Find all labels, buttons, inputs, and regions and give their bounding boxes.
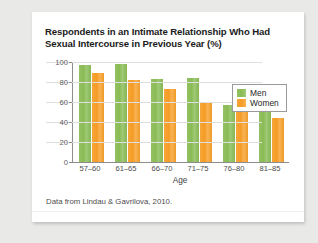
chart-plot-area: 020406080100 57–6061–6566–7071–7576–8081… — [46, 56, 294, 186]
y-tick-mark — [69, 122, 72, 123]
legend-item-women: Women — [237, 98, 279, 108]
bar-men-61–65 — [115, 64, 127, 162]
bar-group — [79, 62, 104, 162]
y-tick-label: 80 — [60, 78, 68, 87]
chart-legend: Men Women — [232, 84, 287, 112]
bar-group — [187, 62, 212, 162]
bar-group — [259, 62, 284, 162]
chart-card: Respondents in an Intimate Relationship … — [32, 12, 304, 222]
bar-group — [115, 62, 140, 162]
x-tick-label: 71–75 — [187, 164, 208, 173]
y-tick-mark — [69, 162, 72, 163]
y-tick-label: 60 — [60, 98, 68, 107]
bar-men-57–60 — [79, 65, 91, 162]
x-tick-label: 81–85 — [259, 164, 280, 173]
y-tick-mark — [69, 82, 72, 83]
y-tick-label: 100 — [55, 58, 68, 67]
legend-swatch-men-icon — [237, 89, 246, 97]
y-tick-label: 20 — [60, 138, 68, 147]
bar-women-61–65 — [128, 80, 140, 162]
footer-divider — [32, 211, 304, 212]
legend-swatch-women-icon — [237, 99, 246, 107]
legend-label-women: Women — [250, 98, 279, 108]
y-tick-mark — [69, 102, 72, 103]
source-caption: Data from Lindau & Gavrilova, 2010. — [46, 197, 172, 206]
x-axis-line — [72, 162, 289, 163]
y-tick-label: 40 — [60, 118, 68, 127]
bars-container — [72, 62, 288, 162]
bar-women-81–85 — [272, 118, 284, 162]
bar-men-81–85 — [259, 107, 271, 162]
bar-group — [223, 62, 248, 162]
legend-label-men: Men — [250, 88, 266, 98]
bar-women-57–60 — [92, 73, 104, 162]
y-tick-mark — [69, 62, 72, 63]
gridline — [46, 62, 262, 63]
bar-women-66–70 — [164, 89, 176, 162]
x-tick-label: 61–65 — [115, 164, 136, 173]
bar-men-71–75 — [187, 78, 199, 162]
x-axis-title: Age — [72, 176, 288, 185]
x-tick-label: 66–70 — [151, 164, 172, 173]
bar-men-66–70 — [151, 79, 163, 162]
gridline — [46, 82, 262, 83]
bar-women-71–75 — [200, 103, 212, 162]
y-tick-mark — [69, 142, 72, 143]
gridline — [46, 142, 262, 143]
y-tick-label: 0 — [64, 158, 68, 167]
x-tick-label: 57–60 — [79, 164, 100, 173]
x-tick-label: 76–80 — [223, 164, 244, 173]
gridline — [46, 122, 262, 123]
gridline — [46, 102, 262, 103]
bar-group — [151, 62, 176, 162]
legend-item-men: Men — [237, 88, 279, 98]
screenshot-root: Respondents in an Intimate Relationship … — [0, 0, 318, 243]
bar-men-76–80 — [223, 105, 235, 162]
page-title: Respondents in an Intimate Relationship … — [45, 26, 293, 50]
